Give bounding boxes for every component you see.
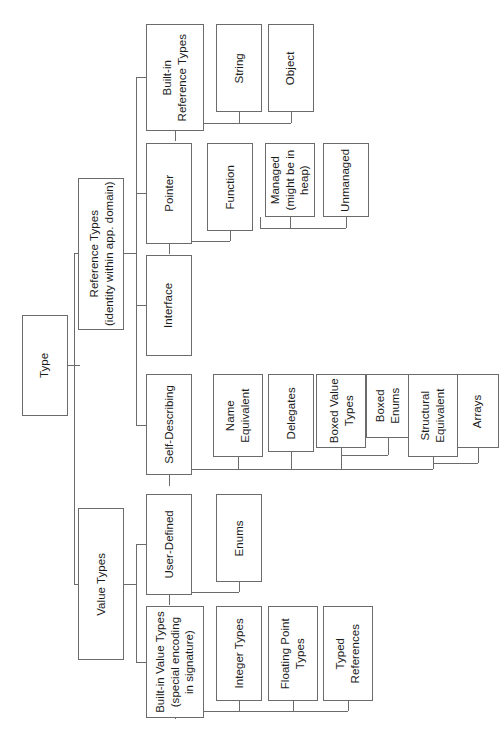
connector-func-to-unman bbox=[346, 217, 347, 228]
node-label-managed: Managed (might be in heap) bbox=[268, 150, 312, 211]
connector-func-to-managed bbox=[290, 217, 291, 228]
connector-ref-stub bbox=[124, 253, 136, 254]
connector-sd-to-name bbox=[238, 457, 239, 469]
connector-bvt-bus bbox=[341, 455, 388, 456]
connector-ptr-stub bbox=[169, 244, 170, 254]
connector-bvt2-to-typed bbox=[348, 701, 349, 711]
connector-ud-stub bbox=[169, 595, 170, 605]
node-integer_types[interactable]: Integer Types bbox=[216, 606, 262, 701]
connector-ref-to-pointer bbox=[136, 193, 146, 194]
connector-sd-to-deleg bbox=[291, 452, 292, 469]
node-label-self_describing: Self-Describing bbox=[162, 385, 177, 464]
node-self_describing[interactable]: Self-Describing bbox=[146, 374, 192, 475]
node-interface[interactable]: Interface bbox=[146, 255, 192, 356]
node-reference_types[interactable]: Reference Types (identity within app. do… bbox=[78, 178, 124, 330]
node-string[interactable]: String bbox=[216, 24, 262, 112]
node-label-delegates: Delegates bbox=[284, 387, 299, 439]
node-label-name_equiv: Name Equivalent bbox=[223, 388, 252, 442]
node-label-builtin_ref: Built-in Reference Types bbox=[160, 34, 189, 121]
node-label-boxed_enums: Boxed Enums bbox=[373, 388, 402, 424]
connector-bvt2-to-float bbox=[293, 701, 294, 711]
node-label-user_defined: User-Defined bbox=[162, 510, 177, 578]
connector-val-bus bbox=[136, 544, 137, 662]
node-label-typed_refs: Typed References bbox=[333, 624, 362, 683]
node-label-value_types: Value Types bbox=[94, 553, 109, 616]
node-object[interactable]: Object bbox=[268, 24, 314, 112]
node-builtin_value[interactable]: Built-in Value Types (special encoding i… bbox=[146, 606, 204, 718]
node-builtin_ref[interactable]: Built-in Reference Types bbox=[146, 24, 204, 131]
node-pointer[interactable]: Pointer bbox=[146, 143, 192, 244]
connector-sd-bus bbox=[169, 469, 433, 470]
node-struct_equiv[interactable]: Structural Equivalent bbox=[408, 374, 458, 457]
connector-func-stub bbox=[230, 231, 231, 232]
connector-type-bus bbox=[74, 253, 75, 584]
connector-bvt-to-benums bbox=[388, 438, 389, 455]
node-function[interactable]: Function bbox=[207, 143, 253, 231]
node-label-floating_point: Floating Point Types bbox=[278, 618, 307, 689]
connector-ref-to-interface bbox=[136, 305, 146, 306]
node-enums[interactable]: Enums bbox=[216, 494, 262, 582]
node-label-arrays: Arrays bbox=[471, 394, 486, 428]
node-label-enums: Enums bbox=[232, 520, 247, 556]
node-floating_point[interactable]: Floating Point Types bbox=[268, 606, 318, 701]
node-arrays[interactable]: Arrays bbox=[457, 374, 499, 448]
node-label-boxed_value: Boxed Value Types bbox=[326, 379, 355, 444]
node-unmanaged[interactable]: Unmanaged bbox=[323, 143, 369, 217]
connector-ptr-to-func bbox=[230, 231, 231, 241]
node-label-interface: Interface bbox=[162, 283, 177, 328]
connector-sd-to-bvt bbox=[341, 448, 342, 469]
node-label-unmanaged: Unmanaged bbox=[339, 148, 354, 211]
node-label-builtin_value: Built-in Value Types (special encoding i… bbox=[153, 611, 197, 713]
connector-ud-to-enums bbox=[239, 582, 240, 592]
connector-se-to-arrays bbox=[478, 448, 479, 463]
connector-bvt2-to-int bbox=[239, 701, 240, 711]
node-label-function: Function bbox=[223, 165, 238, 210]
node-value_types[interactable]: Value Types bbox=[78, 508, 124, 660]
connector-bir-to-object bbox=[291, 112, 292, 123]
node-boxed_value[interactable]: Boxed Value Types bbox=[316, 374, 366, 448]
connector-ref-to-self bbox=[136, 425, 146, 426]
node-label-struct_equiv: Structural Equivalent bbox=[418, 388, 447, 442]
connector-ref-bus bbox=[136, 77, 137, 425]
connector-val-stub bbox=[124, 584, 136, 585]
node-label-string: String bbox=[232, 53, 247, 83]
node-label-object: Object bbox=[284, 51, 299, 85]
node-typed_refs[interactable]: Typed References bbox=[323, 606, 373, 701]
node-delegates[interactable]: Delegates bbox=[268, 374, 314, 452]
node-user_defined[interactable]: User-Defined bbox=[146, 494, 192, 595]
connector-func-bus bbox=[260, 228, 346, 229]
type-hierarchy-diagram: TypeReference Types (identity within app… bbox=[0, 0, 502, 729]
connector-val-to-user bbox=[136, 544, 146, 545]
node-managed[interactable]: Managed (might be in heap) bbox=[265, 143, 315, 217]
connector-sd-stub bbox=[169, 475, 170, 486]
node-name_equiv[interactable]: Name Equivalent bbox=[213, 374, 263, 457]
node-label-pointer: Pointer bbox=[162, 175, 177, 212]
connector-bir-to-string bbox=[239, 112, 240, 123]
connector-func-down bbox=[260, 217, 261, 228]
connector-val-to-bvt bbox=[136, 662, 146, 663]
node-label-integer_types: Integer Types bbox=[232, 618, 247, 688]
connector-se-bus bbox=[433, 463, 478, 464]
node-label-type: Type bbox=[38, 353, 53, 378]
node-type[interactable]: Type bbox=[22, 315, 68, 416]
connector-bir-stub bbox=[175, 131, 176, 141]
node-label-reference_types: Reference Types (identity within app. do… bbox=[86, 182, 115, 327]
connector-ref-to-builtin bbox=[136, 77, 146, 78]
node-boxed_enums[interactable]: Boxed Enums bbox=[366, 374, 410, 438]
